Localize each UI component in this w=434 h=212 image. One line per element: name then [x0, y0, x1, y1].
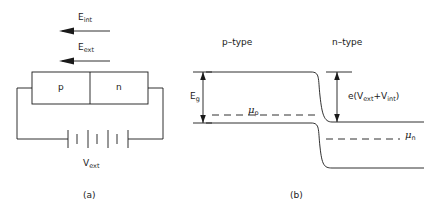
- e-ext-arrow: [59, 58, 110, 65]
- p-type-label: p–type: [222, 38, 252, 47]
- v-ext-label: Vext: [83, 159, 99, 168]
- panel-b-band-diagram: [193, 72, 424, 168]
- region-n-label: n: [116, 83, 122, 92]
- band-gap-label: Eg: [190, 92, 200, 101]
- mu-n-label: μn: [405, 130, 416, 140]
- e-int-label: Eint: [78, 13, 92, 22]
- e-int-arrow: [59, 28, 110, 35]
- valence-band-edge: [206, 123, 424, 168]
- e-ext-label: Eext: [78, 43, 94, 52]
- mu-p-label: μp: [248, 105, 259, 115]
- caption-b: (b): [290, 190, 303, 200]
- pn-junction-figure: [0, 0, 434, 212]
- caption-a: (a): [83, 190, 96, 200]
- band-offset-label: e(Vext+Vint): [348, 92, 399, 101]
- n-type-label: n–type: [332, 38, 362, 47]
- battery-symbol: [68, 130, 128, 148]
- region-p-label: p: [58, 83, 64, 92]
- pn-block: [32, 72, 148, 104]
